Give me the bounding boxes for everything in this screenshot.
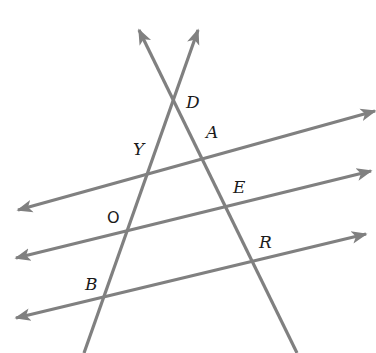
point-label-e: E xyxy=(232,177,246,197)
point-label-d: D xyxy=(185,92,200,112)
lines-group xyxy=(16,30,375,353)
geometry-diagram: DAYEORB xyxy=(0,0,376,353)
point-label-a: A xyxy=(204,122,218,142)
point-label-y: Y xyxy=(133,139,146,159)
point-label-o: O xyxy=(107,208,120,227)
transversal-line-2 xyxy=(84,30,198,353)
parallel-line-1 xyxy=(18,111,375,210)
point-label-r: R xyxy=(258,232,272,252)
transversal-line-1 xyxy=(139,30,297,353)
point-label-b: B xyxy=(84,274,98,294)
